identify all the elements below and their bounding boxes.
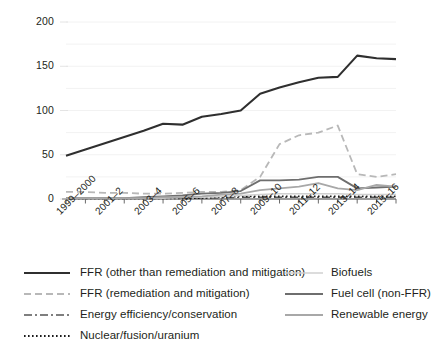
legend-line-swatch (24, 266, 70, 280)
legend-item[interactable]: Biofuels (285, 262, 431, 283)
gridlines (66, 22, 396, 177)
legend-column-right: BiofuelsFuel cell (non-FFR)Renewable ene… (285, 262, 431, 325)
y-tick-label: 100 (20, 104, 54, 116)
legend-item[interactable]: Fuel cell (non-FFR) (285, 283, 431, 304)
legend-item-label: FFR (remediation and mitigation) (80, 288, 250, 300)
series-line-1 (66, 126, 396, 194)
legend-item-label: Renewable energy (331, 309, 428, 321)
y-tick-label: 200 (20, 15, 54, 27)
y-tick-label: 50 (20, 148, 54, 160)
legend-item[interactable]: FFR (remediation and mitigation) (24, 283, 305, 304)
legend-item-label: Fuel cell (non-FFR) (331, 288, 431, 300)
legend-line-swatch (285, 287, 323, 301)
legend-line-swatch (24, 308, 70, 322)
legend-line-swatch (24, 329, 70, 343)
legend-item-label: Biofuels (331, 267, 372, 279)
y-tick-label: 0 (20, 192, 54, 204)
legend-item[interactable]: Energy efficiency/conservation (24, 304, 305, 325)
legend-item-label: Energy efficiency/conservation (80, 309, 237, 321)
legend-line-swatch (285, 308, 323, 322)
legend-item-label: FFR (other than remediation and mitigati… (80, 267, 305, 279)
legend-line-swatch (285, 266, 323, 280)
legend-item-label: Nuclear/fusion/uranium (80, 330, 199, 342)
legend-item[interactable]: Nuclear/fusion/uranium (24, 325, 305, 346)
y-tick-label: 150 (20, 59, 54, 71)
legend-item[interactable]: FFR (other than remediation and mitigati… (24, 262, 305, 283)
chart-legend: FFR (other than remediation and mitigati… (0, 262, 425, 348)
legend-column-left: FFR (other than remediation and mitigati… (24, 262, 305, 346)
legend-line-swatch (24, 287, 70, 301)
series-line-0 (66, 56, 396, 156)
legend-item[interactable]: Renewable energy (285, 304, 431, 325)
